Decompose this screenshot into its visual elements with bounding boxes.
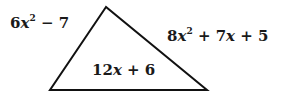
coefficient: 12 <box>92 61 113 79</box>
constant-term: + 5 <box>235 27 268 45</box>
triangle-diagram: 6x2 − 7 8x2 + 7x + 5 12x + 6 <box>0 0 283 96</box>
linear-term: + 7 <box>193 27 226 45</box>
side-label-bottom: 12x + 6 <box>92 63 155 78</box>
side-label-right: 8x2 + 7x + 5 <box>167 29 269 44</box>
coefficient: 8 <box>167 27 177 45</box>
variable: x <box>113 61 122 79</box>
variable: x <box>226 27 235 45</box>
coefficient: 6 <box>10 14 20 32</box>
side-label-left: 6x2 − 7 <box>10 16 69 31</box>
constant-term: − 7 <box>36 14 69 32</box>
constant-term: + 6 <box>122 61 155 79</box>
